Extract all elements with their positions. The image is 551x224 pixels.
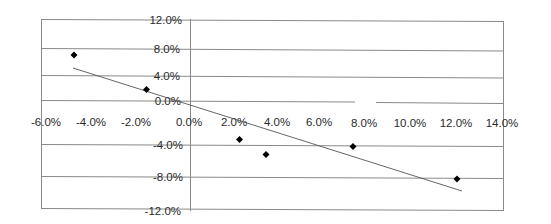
- gridline-y-8: [41, 49, 503, 52]
- x-tick-4: 4.0%: [264, 116, 290, 128]
- y-tick-8: 8.0%: [154, 43, 180, 55]
- y-tick-neg12: -12.0%: [145, 205, 181, 217]
- gridline-y-12: [41, 20, 503, 22]
- x-tick-neg6: -6.0%: [31, 116, 61, 128]
- data-point-marker: [236, 136, 243, 143]
- gridline-y-0-right: [376, 103, 503, 104]
- trend-line: [73, 68, 462, 191]
- data-point-marker: [350, 143, 357, 150]
- scatter-chart: 12.0% 8.0% 4.0% 0.0% -4.0% -8.0% -12.0% …: [0, 0, 551, 224]
- y-tick-12: 12.0%: [149, 14, 182, 26]
- data-point-marker: [454, 176, 461, 183]
- x-tick-12: 12.0%: [440, 117, 473, 129]
- data-point-marker: [71, 52, 78, 59]
- y-tick-neg4: -4.0%: [153, 139, 183, 151]
- x-tick-0: 0.0%: [176, 116, 202, 128]
- x-tick-14: 14.0%: [486, 117, 519, 129]
- gridline-y-neg4: [41, 145, 503, 147]
- x-tick-10: 10.0%: [394, 117, 427, 129]
- gridline-y-neg12: [41, 209, 503, 211]
- x-axis-ticks: -6.0% -4.0% -2.0% 0.0% 2.0% 4.0% 6.0% 8.…: [31, 116, 518, 129]
- gridline-y-neg8: [41, 177, 503, 179]
- x-tick-neg2: -2.0%: [121, 116, 151, 128]
- x-tick-6: 6.0%: [306, 116, 332, 128]
- gridline-y-0: [41, 101, 355, 103]
- y-tick-4: 4.0%: [154, 70, 180, 82]
- data-point-marker: [263, 151, 270, 158]
- x-tick-neg4: -4.0%: [76, 116, 106, 128]
- x-tick-8: 8.0%: [351, 117, 377, 129]
- y-tick-neg8: -8.0%: [153, 171, 183, 183]
- gridline-y-4: [41, 76, 503, 79]
